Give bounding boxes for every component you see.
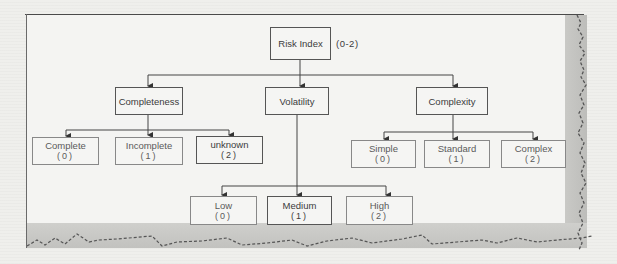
node-standard: Standard (1)	[424, 140, 490, 168]
node-simple: Simple (0)	[351, 140, 416, 168]
node-label: Complex	[515, 143, 553, 154]
node-label: Complexity	[429, 96, 476, 107]
node-label: High	[370, 200, 390, 211]
node-label: Medium	[283, 200, 317, 211]
node-value: (1)	[141, 151, 158, 162]
node-complexity: Complexity	[416, 87, 488, 115]
node-label: unknown	[210, 139, 248, 150]
frame-top-border	[25, 14, 584, 15]
node-label: Incomplete	[126, 140, 172, 151]
risk-index-range: (0-2)	[336, 38, 359, 49]
scanned-page: Risk Index (0-2) Completeness Volatility…	[0, 0, 617, 264]
node-label: Complete	[45, 140, 86, 151]
node-volatility: Volatility	[265, 87, 329, 115]
torn-edge-bottom	[27, 226, 592, 250]
node-high: High (2)	[346, 196, 413, 225]
node-label: Volatility	[280, 96, 315, 107]
node-value: (0)	[215, 211, 232, 222]
node-label: Risk Index	[278, 38, 322, 49]
node-label: Low	[215, 200, 232, 211]
frame-left-border	[26, 14, 27, 248]
torn-edge-right	[575, 15, 605, 250]
node-medium: Medium (1)	[267, 196, 332, 225]
node-complex: Complex (2)	[501, 140, 566, 168]
node-value: (0)	[57, 151, 74, 162]
node-value: (1)	[291, 211, 308, 222]
node-completeness: Completeness	[115, 87, 183, 115]
node-value: (2)	[371, 211, 388, 222]
node-value: (2)	[221, 150, 238, 161]
node-value: (0)	[375, 154, 392, 165]
node-unknown: unknown (2)	[196, 136, 263, 164]
node-risk-index: Risk Index	[270, 27, 331, 60]
node-label: Simple	[369, 143, 398, 154]
node-value: (1)	[449, 154, 466, 165]
node-incomplete: Incomplete (1)	[115, 137, 183, 165]
node-complete: Complete (0)	[32, 137, 99, 165]
node-value: (2)	[525, 154, 542, 165]
node-label: Completeness	[119, 96, 180, 107]
node-low: Low (0)	[190, 196, 257, 225]
node-label: Standard	[438, 143, 477, 154]
